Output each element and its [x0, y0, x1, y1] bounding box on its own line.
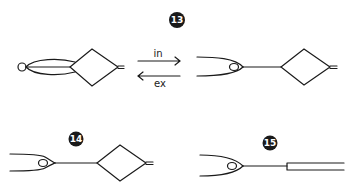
double-line-end	[330, 66, 337, 69]
lens-lower	[26, 67, 75, 75]
diamond-shape	[70, 49, 118, 86]
loop-circle	[228, 163, 237, 170]
step-13-badge: 13	[169, 12, 185, 28]
double-line-end	[118, 66, 124, 69]
arrow-ex: ex	[138, 72, 180, 89]
loop-circle	[39, 160, 48, 167]
step-14-badge: 14	[69, 132, 84, 147]
diagram-top-right	[197, 49, 337, 85]
jaw-upper	[10, 154, 55, 163]
double-shaft	[287, 163, 344, 170]
diagram-canvas: 13 in ex 14	[0, 0, 354, 189]
double-line-end	[146, 162, 153, 165]
step-14-badge-label: 14	[70, 134, 83, 144]
diamond-shape	[97, 145, 146, 181]
jaw-upper	[197, 57, 243, 67]
lens-upper	[26, 59, 75, 67]
step-13-badge-label: 13	[171, 15, 184, 25]
step-15-badge: 15	[263, 136, 278, 151]
diagram-bottom-left	[10, 145, 153, 181]
diamond-shape	[281, 49, 330, 85]
jaw-lower	[197, 67, 243, 76]
diagram-bottom-right	[200, 155, 344, 176]
arrow-in-label: in	[153, 48, 162, 59]
loop-circle	[18, 63, 26, 71]
loop-circle	[230, 64, 239, 71]
arrow-ex-label: ex	[154, 78, 166, 89]
jaw-lower	[10, 163, 55, 171]
arrow-in: in	[138, 48, 180, 65]
diagram-top-left	[18, 49, 124, 86]
step-15-badge-label: 15	[264, 138, 277, 148]
